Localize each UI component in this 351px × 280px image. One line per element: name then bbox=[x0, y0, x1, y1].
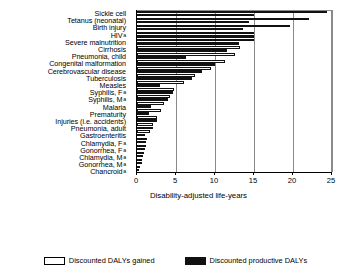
x-axis-tick bbox=[214, 172, 215, 175]
bar-solid bbox=[137, 49, 227, 52]
x-axis-tick-label: 0 bbox=[134, 176, 138, 185]
category-label-column: Sickle cellTetanus (neonatal)Birth injur… bbox=[0, 10, 129, 172]
bar-row bbox=[137, 66, 332, 73]
bar-solid bbox=[137, 141, 146, 144]
bar-solid bbox=[137, 28, 243, 31]
x-axis-tick bbox=[253, 172, 254, 175]
x-axis-tick bbox=[175, 172, 176, 175]
x-axis-tick bbox=[292, 172, 293, 175]
category-label: Birth injury bbox=[0, 24, 129, 31]
bar-row bbox=[137, 59, 332, 66]
bar-row bbox=[137, 17, 332, 24]
bar-solid bbox=[137, 148, 145, 151]
bar-solid bbox=[137, 14, 254, 17]
bar-row bbox=[137, 151, 332, 158]
legend-swatch-solid bbox=[185, 257, 206, 265]
legend-swatch-open bbox=[44, 257, 65, 265]
x-axis-tick-label: 15 bbox=[249, 176, 257, 185]
bar-row bbox=[137, 73, 332, 80]
bar-solid bbox=[137, 98, 168, 101]
x-axis-tick-label: 20 bbox=[288, 176, 296, 185]
bar-solid bbox=[137, 169, 139, 172]
plot-area bbox=[136, 10, 332, 172]
bar-row bbox=[137, 109, 332, 116]
gridline bbox=[332, 10, 333, 172]
bar-row bbox=[137, 158, 332, 165]
bar-row bbox=[137, 38, 332, 45]
bar-row bbox=[137, 52, 332, 59]
x-axis-title: Disability-adjusted life-years bbox=[0, 191, 351, 200]
bar-row bbox=[137, 24, 332, 31]
bar-row bbox=[137, 144, 332, 151]
bar-row bbox=[137, 10, 332, 17]
bar-row bbox=[137, 137, 332, 144]
bar-solid bbox=[137, 70, 202, 73]
bar-solid bbox=[137, 134, 145, 137]
x-axis-tick bbox=[331, 172, 332, 175]
x-axis-line bbox=[136, 172, 332, 173]
legend-item: Discounted productive DALYs bbox=[185, 256, 308, 265]
x-axis-tick-label: 10 bbox=[210, 176, 218, 185]
bar-solid bbox=[137, 112, 149, 115]
legend-item: Discounted DALYs gained bbox=[44, 256, 155, 265]
bar-solid bbox=[137, 91, 173, 94]
bar-row bbox=[137, 116, 332, 123]
bar-solid bbox=[137, 84, 160, 87]
bar-row bbox=[137, 88, 332, 95]
bar-row bbox=[137, 102, 332, 109]
bar-solid bbox=[137, 77, 192, 80]
category-label: Chancroida bbox=[0, 168, 129, 175]
x-axis-tick-label: 5 bbox=[173, 176, 177, 185]
bar-solid bbox=[137, 42, 239, 45]
chart-figure: Sickle cellTetanus (neonatal)Birth injur… bbox=[0, 0, 351, 280]
bar-row bbox=[137, 130, 332, 137]
bar-row-group bbox=[137, 10, 332, 172]
bar-solid bbox=[137, 155, 143, 158]
bar-solid bbox=[137, 56, 186, 59]
legend-label: Discounted DALYs gained bbox=[69, 256, 155, 265]
bar-row bbox=[137, 80, 332, 87]
x-axis-tick-label: 25 bbox=[327, 176, 335, 185]
legend-label: Discounted productive DALYs bbox=[210, 256, 308, 265]
bar-solid bbox=[137, 35, 254, 38]
x-axis-title-text: Disability-adjusted life-years bbox=[104, 191, 247, 200]
x-axis-tick bbox=[136, 172, 137, 175]
bar-solid bbox=[137, 127, 153, 130]
bar-solid bbox=[137, 162, 142, 165]
bar-row bbox=[137, 123, 332, 130]
bar-solid bbox=[137, 63, 215, 66]
bar-row bbox=[137, 45, 332, 52]
bar-row bbox=[137, 95, 332, 102]
bar-row bbox=[137, 31, 332, 38]
chart-legend: Discounted DALYs gainedDiscounted produc… bbox=[0, 256, 351, 265]
bar-solid bbox=[137, 119, 157, 122]
bar-solid bbox=[137, 105, 151, 108]
bar-solid bbox=[137, 21, 249, 24]
